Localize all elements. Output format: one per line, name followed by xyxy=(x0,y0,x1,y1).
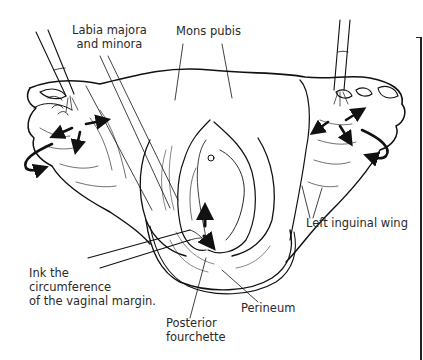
left-arrow-2 xyxy=(86,120,106,124)
label-posterior-fourchette: Posterior fourchette xyxy=(166,316,226,344)
right-arrow-4 xyxy=(362,130,388,158)
perineum-edge xyxy=(146,220,291,290)
mons-leader-1 xyxy=(175,44,183,100)
right-arrow-1 xyxy=(314,122,328,132)
label-left-inguinal-wing: Left inguinal wing xyxy=(306,216,408,230)
label-ink-line2: circumference xyxy=(29,280,156,294)
labia-leader-2 xyxy=(108,56,178,200)
right-inguinal-wing xyxy=(28,88,150,244)
label-fourchette-line1: Posterior xyxy=(166,316,226,330)
arrow-down xyxy=(204,236,212,246)
label-labia-majora-minora: Labia majora and minora xyxy=(72,23,147,51)
ink-applicator-bottom xyxy=(100,240,190,268)
left-arrow-1 xyxy=(54,128,72,136)
left-arrow-3 xyxy=(76,132,80,150)
ink-applicator-right-b xyxy=(344,20,350,90)
inguinal-leader-1 xyxy=(302,186,310,218)
label-fourchette-line2: fourchette xyxy=(166,330,226,344)
label-labia-line2: and minora xyxy=(72,37,147,51)
frame-border-right xyxy=(420,37,422,360)
right-arrow-3 xyxy=(340,126,350,142)
label-ink-instruction: Ink the circumference of the vaginal mar… xyxy=(29,266,156,308)
label-mons-pubis: Mons pubis xyxy=(176,24,241,38)
ink-applicator-top xyxy=(88,230,190,258)
label-ink-line3: of the vaginal margin. xyxy=(29,294,156,308)
ink-applicator-right-a xyxy=(334,20,340,90)
frame-border-tick xyxy=(416,37,422,38)
label-ink-line1: Ink the xyxy=(29,266,156,280)
label-perineum: Perineum xyxy=(241,301,295,315)
urethral-meatus xyxy=(208,155,214,161)
labia-majora-right xyxy=(232,138,274,256)
right-arrow-2 xyxy=(346,110,362,120)
left-inguinal-wing xyxy=(286,104,405,262)
label-labia-line1: Labia majora xyxy=(72,23,147,37)
inguinal-leader-2 xyxy=(313,188,322,218)
